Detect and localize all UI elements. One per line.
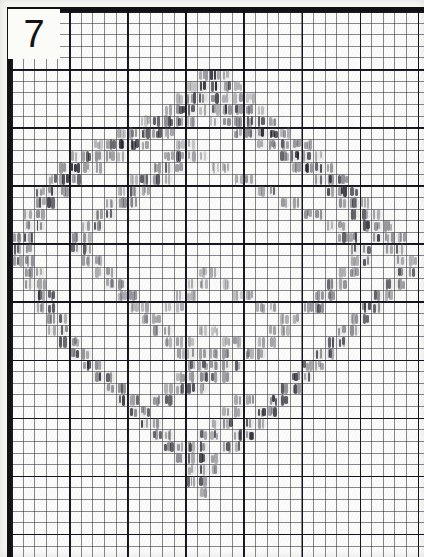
grid-major-lines (11, 11, 424, 557)
figure-root: 7 (0, 0, 424, 557)
figure-number-text: 7 (23, 15, 44, 53)
plot-frame (7, 7, 424, 557)
plot-inner (11, 11, 424, 557)
figure-number-label: 7 (8, 9, 60, 59)
